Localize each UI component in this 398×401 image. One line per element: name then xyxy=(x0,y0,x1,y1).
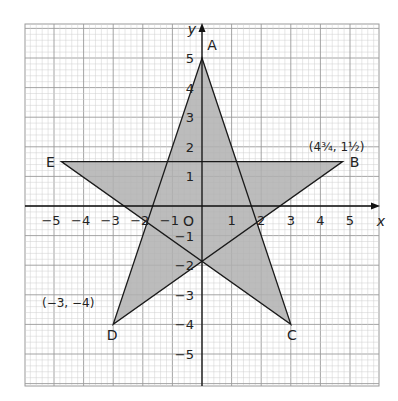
x-tick-label: 1 xyxy=(227,213,235,228)
y-tick-label: 5 xyxy=(186,51,194,66)
x-tick-label: 3 xyxy=(287,213,295,228)
y-tick-label: 3 xyxy=(186,110,194,125)
vertex-label-d: D xyxy=(107,327,118,343)
y-tick-label: 2 xyxy=(186,140,194,155)
coord-label-d: (−3, −4) xyxy=(42,296,94,310)
x-tick-label: −5 xyxy=(41,213,60,228)
star-diagram: −5−4−3−2−11234554321−1−2−3−4−5OxyABCDE(4… xyxy=(0,0,398,401)
origin-label: O xyxy=(183,213,194,229)
y-tick-label: 4 xyxy=(186,81,194,96)
y-axis-label: y xyxy=(187,21,197,37)
y-tick-label: 1 xyxy=(186,169,194,184)
y-tick-label: −4 xyxy=(175,317,194,332)
x-tick-label: −4 xyxy=(71,213,90,228)
vertex-label-a: A xyxy=(207,37,217,53)
y-tick-label: −5 xyxy=(175,347,194,362)
x-tick-label: 2 xyxy=(257,213,265,228)
x-axis-label: x xyxy=(376,213,386,229)
y-tick-label: −1 xyxy=(175,229,194,244)
vertex-label-b: B xyxy=(350,154,360,170)
vertex-label-c: C xyxy=(287,327,297,343)
x-tick-label: 5 xyxy=(346,213,354,228)
x-tick-label: −1 xyxy=(160,213,179,228)
x-tick-label: −2 xyxy=(130,213,149,228)
x-tick-label: −3 xyxy=(101,213,120,228)
y-tick-label: −2 xyxy=(175,258,194,273)
y-tick-label: −3 xyxy=(175,288,194,303)
vertex-label-e: E xyxy=(46,154,55,170)
coord-label-b: (4¾, 1½) xyxy=(309,140,365,154)
x-tick-label: 4 xyxy=(316,213,324,228)
